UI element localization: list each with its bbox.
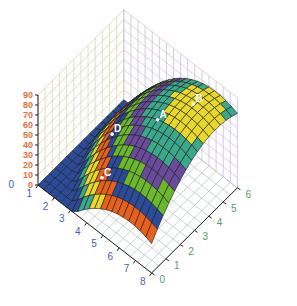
point-label: B [195, 93, 202, 104]
z-tick-label: 20 [23, 160, 33, 170]
x-tick-label: 1 [26, 188, 32, 199]
x-tick-mark [133, 260, 135, 263]
x-tick-mark [52, 198, 54, 201]
y-tick-mark [180, 245, 183, 247]
x-tick-mark [68, 210, 70, 213]
surface-chart: ABCD 01020304050607080900123456780123456 [0, 0, 297, 306]
y-tick-mark [195, 230, 198, 232]
z-tick-label: 70 [23, 110, 33, 120]
x-tick-label: 8 [140, 276, 146, 287]
x-tick-mark [101, 235, 103, 238]
z-tick-label: 80 [23, 100, 33, 110]
y-tick-label: 1 [174, 260, 180, 271]
y-tick-label: 5 [231, 203, 237, 214]
x-tick-label: 6 [108, 251, 114, 262]
y-tick-label: 2 [188, 246, 194, 257]
y-tick-label: 0 [160, 274, 166, 285]
y-tick-label: 4 [217, 217, 223, 228]
origin-label: 0 [8, 179, 14, 190]
z-tick-label: 10 [23, 170, 33, 180]
y-tick-mark [152, 273, 155, 275]
x-tick-label: 3 [59, 213, 65, 224]
x-tick-label: 7 [124, 263, 130, 274]
y-tick-mark [209, 216, 212, 218]
y-tick-mark [237, 188, 240, 190]
x-tick-label: 4 [75, 226, 81, 237]
z-tick-label: 30 [23, 150, 33, 160]
x-tick-mark [117, 248, 119, 251]
point-label: A [160, 109, 167, 120]
point-label: D [114, 123, 121, 134]
z-tick-label: 60 [23, 120, 33, 130]
y-tick-mark [166, 259, 169, 261]
point-label: C [104, 167, 111, 178]
x-tick-mark [150, 273, 152, 276]
y-tick-mark [223, 202, 226, 204]
z-tick-label: 50 [23, 130, 33, 140]
x-tick-label: 2 [43, 201, 49, 212]
x-tick-mark [85, 223, 87, 226]
surface-mesh [38, 78, 237, 243]
z-tick-label: 40 [23, 140, 33, 150]
z-tick-label: 90 [23, 90, 33, 100]
y-tick-label: 3 [203, 231, 209, 242]
y-tick-label: 6 [245, 189, 251, 200]
x-tick-label: 5 [91, 238, 97, 249]
